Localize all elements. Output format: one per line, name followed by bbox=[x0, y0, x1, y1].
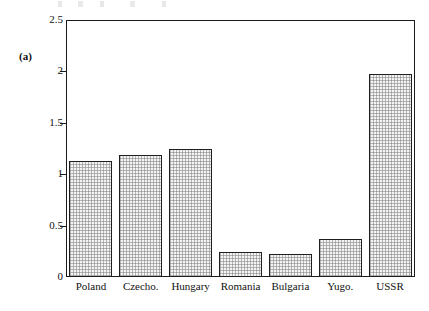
x-tick-label: Czecho. bbox=[116, 280, 166, 293]
x-tick-label: Poland bbox=[66, 280, 116, 293]
bar-czecho bbox=[119, 155, 162, 277]
bar-hungary bbox=[169, 149, 212, 278]
x-tick-label: Yugo. bbox=[315, 280, 365, 293]
x-tick-label: Bulgaria bbox=[265, 280, 315, 293]
figure-panel-a: (a) 00.511.522.5 PolandCzecho.HungaryRom… bbox=[0, 0, 429, 311]
bar-romania bbox=[219, 252, 262, 277]
x-tick-label: USSR bbox=[365, 280, 415, 293]
x-tick-label: Romania bbox=[216, 280, 266, 293]
x-tick-label: Hungary bbox=[166, 280, 216, 293]
bar-yugo bbox=[319, 239, 362, 277]
bar-bulgaria bbox=[269, 254, 312, 277]
bar-poland bbox=[69, 161, 112, 277]
bar-ussr bbox=[369, 74, 412, 277]
bars-layer: PolandCzecho.HungaryRomaniaBulgariaYugo.… bbox=[0, 0, 429, 311]
